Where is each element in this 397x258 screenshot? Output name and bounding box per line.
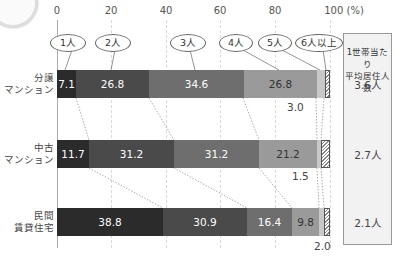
legend-5-persons: 5人 <box>258 34 292 52</box>
segment-1-person: 7.1 <box>57 70 76 98</box>
segment-4-persons: 9.8 <box>292 208 319 236</box>
avg-private-rental: 2.1人 <box>344 215 391 230</box>
segment-6-plus-persons <box>324 208 330 236</box>
segment-3-persons: 34.6 <box>149 70 244 98</box>
segment-2-persons: 31.2 <box>89 140 174 168</box>
callout-5-persons-private-rental: 2.0 <box>314 240 331 252</box>
avg-household-size-panel: 1世帯当たり 平均居住人数 3.6人 2.7人 2.1人 <box>343 33 392 245</box>
avg-new-condo: 3.6人 <box>344 77 391 92</box>
bar-used-condo: 11.7 31.2 31.2 21.2 <box>57 140 330 168</box>
row-label-line: 分譲 <box>4 72 54 84</box>
row-label-line: マンション <box>4 84 54 96</box>
bar-new-condo: 7.1 26.8 34.6 26.8 <box>57 70 330 98</box>
bar-private-rental: 38.8 30.9 16.4 9.8 <box>57 208 330 236</box>
segment-3-persons: 16.4 <box>247 208 292 236</box>
row-label-private-rental: 民間 賃貸住宅 <box>14 210 54 234</box>
segment-6-plus-persons <box>321 140 330 168</box>
row-label-used-condo: 中古 マンション <box>4 142 54 166</box>
row-label-line: 賃貸住宅 <box>14 222 54 234</box>
row-label-line: 中古 <box>4 142 54 154</box>
segment-1-person: 38.8 <box>57 208 163 236</box>
segment-2-persons: 26.8 <box>76 70 149 98</box>
segment-4-persons: 21.2 <box>259 140 317 168</box>
legend-6-plus-persons: 6人以上 <box>295 34 343 52</box>
avg-used-condo: 2.7人 <box>344 147 391 162</box>
legend-2-persons: 2人 <box>95 34 131 52</box>
callout-5-persons-used-condo: 1.5 <box>292 170 309 182</box>
panel-title-line: 1世帯当たり <box>344 46 391 70</box>
segment-5-persons <box>317 70 325 98</box>
segment-1-person: 11.7 <box>57 140 89 168</box>
row-label-line: マンション <box>4 154 54 166</box>
segment-3-persons: 31.2 <box>174 140 259 168</box>
legend-4-persons: 4人 <box>219 34 253 52</box>
legend-3-persons: 3人 <box>170 34 206 52</box>
segment-4-persons: 26.8 <box>244 70 317 98</box>
row-label-line: 民間 <box>14 210 54 222</box>
segment-6-plus-persons <box>325 70 330 98</box>
segment-2-persons: 30.9 <box>163 208 247 236</box>
callout-5-persons-new-condo: 3.0 <box>287 101 304 113</box>
legend-1-person: 1人 <box>50 34 86 52</box>
row-label-new-condo: 分譲 マンション <box>4 72 54 96</box>
